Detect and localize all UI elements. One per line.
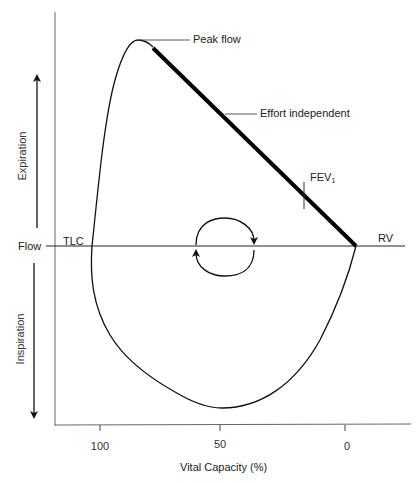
x-axis — [55, 424, 411, 425]
expiration-label: Expiration — [16, 126, 28, 186]
x-axis-label: Vital Capacity (%) — [180, 461, 267, 473]
clockwise-loop-icon — [196, 218, 254, 276]
x-tick-label-50: 50 — [214, 438, 226, 450]
x-tick-label-0: 0 — [344, 440, 350, 452]
effort-independent-segment — [153, 48, 356, 246]
flow-axis-label: Flow — [18, 240, 41, 252]
inspiratory-curve — [91, 246, 356, 408]
x-tick-label-100: 100 — [91, 440, 109, 452]
fev1-label-subscript: 1 — [331, 177, 335, 184]
fev1-label: FEV1 — [310, 171, 335, 184]
expiratory-curve — [92, 40, 153, 246]
effort-independent-label: Effort independent — [260, 107, 350, 119]
inspiration-label: Inspiration — [14, 309, 26, 369]
peak-flow-label: Peak flow — [193, 33, 241, 45]
tlc-label: TLC — [63, 235, 84, 247]
rv-label: RV — [378, 232, 393, 244]
fev1-label-main: FEV — [310, 171, 331, 183]
